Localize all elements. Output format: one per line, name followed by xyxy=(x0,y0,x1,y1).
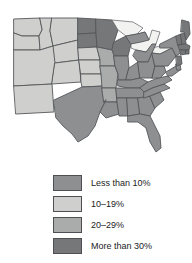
state-massachusetts xyxy=(178,44,190,50)
state-missouri xyxy=(100,66,118,88)
state-rhode-island xyxy=(186,50,189,54)
legend-item-1: 10–19% xyxy=(53,193,192,214)
us-map-svg xyxy=(0,0,192,170)
state-new-jersey xyxy=(176,56,182,66)
legend-swatch-0 xyxy=(53,175,82,191)
state-connecticut xyxy=(180,50,186,55)
map-legend: Less than 10% 10–19% 20–29% More than 30… xyxy=(53,172,192,260)
state-oklahoma xyxy=(81,74,104,87)
state-oregon xyxy=(14,33,40,50)
state-iowa xyxy=(97,47,115,66)
legend-label-1: 10–19% xyxy=(91,199,124,209)
state-nevada-utah xyxy=(14,46,55,86)
legend-swatch-1 xyxy=(53,196,82,212)
legend-item-3: More than 30% xyxy=(53,235,192,256)
us-map xyxy=(0,0,192,170)
state-mississippi xyxy=(117,98,128,116)
legend-swatch-2 xyxy=(53,217,82,233)
legend-label-3: More than 30% xyxy=(91,241,152,251)
state-washington xyxy=(14,18,42,36)
choropleth-figure: Less than 10% 10–19% 20–29% More than 30… xyxy=(0,0,192,263)
state-arkansas xyxy=(102,88,117,102)
state-north-dakota xyxy=(78,18,96,34)
state-florida xyxy=(128,114,161,152)
legend-swatch-3 xyxy=(53,238,82,254)
state-nebraska xyxy=(78,47,100,60)
state-kansas xyxy=(79,60,101,74)
legend-item-0: Less than 10% xyxy=(53,172,192,193)
state-colorado xyxy=(52,60,81,84)
legend-item-2: 20–29% xyxy=(53,214,192,235)
state-west-virginia xyxy=(152,66,166,78)
legend-label-0: Less than 10% xyxy=(91,178,151,188)
state-texas xyxy=(54,86,106,142)
state-new-mexico xyxy=(14,84,54,114)
legend-label-2: 20–29% xyxy=(91,220,124,230)
state-south-dakota xyxy=(78,33,97,48)
